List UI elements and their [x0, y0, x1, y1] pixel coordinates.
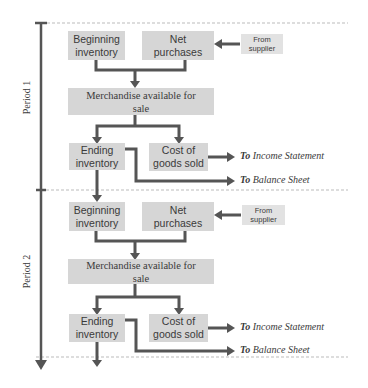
period-1-label: Period 1	[21, 72, 32, 124]
p2-ending-inventory-box: Ending inventory	[69, 314, 125, 342]
period-2-label: Period 2	[21, 246, 32, 298]
p2-beginning-inventory-label: Beginning inventory	[69, 204, 125, 230]
p1-beginning-inventory-label: Beginning inventory	[68, 33, 125, 59]
p2-net-purchases-label: Net purchases	[150, 204, 206, 230]
p1-to-balance-sheet: To Balance Sheet	[240, 174, 310, 185]
p1-merchandise-box: Merchandise available for sale	[68, 88, 214, 115]
p1-beginning-inventory-box: Beginning inventory	[68, 31, 125, 60]
p1-to-income-statement: To Income Statement	[240, 150, 324, 161]
p2-merchandise-label: Merchandise available for sale	[86, 259, 196, 285]
p2-to-income-statement: To Income Statement	[240, 321, 324, 332]
p2-merchandise-box: Merchandise available for sale	[68, 259, 214, 284]
p2-from-supplier-box: From supplier	[242, 205, 285, 225]
p2-cost-of-goods-sold-label: Cost of goods sold	[151, 315, 206, 341]
p1-merchandise-label: Merchandise available for sale	[86, 89, 196, 115]
p2-net-purchases-box: Net purchases	[142, 202, 214, 231]
p1-from-supplier-label: From supplier	[244, 35, 280, 54]
p1-from-supplier-box: From supplier	[241, 34, 283, 54]
p2-cost-of-goods-sold-box: Cost of goods sold	[149, 314, 208, 342]
p1-ending-inventory-label: Ending inventory	[70, 144, 124, 170]
p1-cost-of-goods-sold-box: Cost of goods sold	[149, 143, 208, 171]
p2-ending-inventory-label: Ending inventory	[70, 315, 124, 341]
p1-net-purchases-label: Net purchases	[150, 33, 206, 59]
p2-from-supplier-label: From supplier	[246, 206, 282, 225]
p1-net-purchases-box: Net purchases	[142, 31, 214, 60]
p1-cost-of-goods-sold-label: Cost of goods sold	[151, 144, 206, 170]
p2-beginning-inventory-box: Beginning inventory	[69, 202, 125, 231]
p2-to-balance-sheet: To Balance Sheet	[240, 344, 310, 355]
p1-ending-inventory-box: Ending inventory	[69, 143, 125, 170]
